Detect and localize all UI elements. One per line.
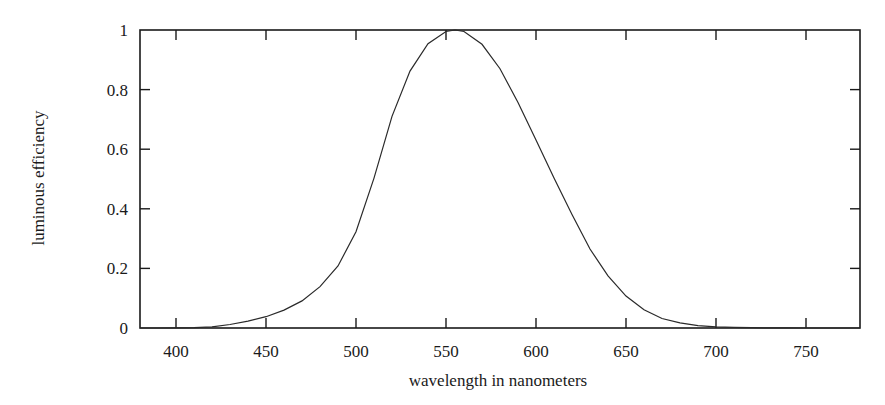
x-axis-label: wavelength in nanometers (409, 371, 587, 390)
y-tick-label: 0.6 (107, 140, 128, 159)
y-tick-label: 0 (120, 319, 129, 338)
x-tick-label: 700 (703, 342, 729, 361)
x-tick-label: 450 (253, 342, 279, 361)
x-tick-label: 600 (523, 342, 549, 361)
luminosity-chart: 400450500550600650700750 00.20.40.60.81 … (0, 0, 885, 405)
y-tick-label: 0.2 (107, 259, 128, 278)
x-tick-label: 750 (793, 342, 819, 361)
y-tick-label: 0.4 (107, 200, 129, 219)
x-axis-ticks (176, 30, 806, 328)
y-tick-label: 1 (120, 21, 129, 40)
y-tick-label: 0.8 (107, 81, 128, 100)
x-axis-tick-labels: 400450500550600650700750 (163, 342, 819, 361)
y-axis-label: luminous efficiency (29, 110, 48, 246)
plot-border (140, 30, 860, 328)
x-tick-label: 500 (343, 342, 369, 361)
x-tick-label: 400 (163, 342, 189, 361)
x-tick-label: 550 (433, 342, 459, 361)
x-tick-label: 650 (613, 342, 639, 361)
y-axis-tick-labels: 00.20.40.60.81 (107, 21, 129, 338)
luminous-efficiency-curve (140, 30, 860, 328)
plot-frame (140, 30, 860, 328)
y-axis-ticks (140, 90, 860, 269)
